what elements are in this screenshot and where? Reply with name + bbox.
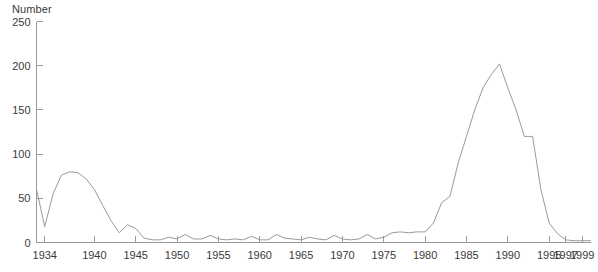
data-series-line — [37, 64, 591, 241]
line-chart-plot: 050100150200250 193419401945195019551960… — [0, 0, 598, 272]
y-tick-label: 50 — [18, 192, 30, 204]
y-tick-label: 250 — [12, 16, 30, 28]
y-tick-label: 0 — [24, 237, 30, 249]
x-axis-ticks: 1934194019451950195519601965197019751980… — [33, 236, 595, 261]
x-tick-label: 1945 — [123, 249, 147, 261]
y-axis-ticks: 050100150200250 — [12, 16, 42, 249]
x-tick-label: 1985 — [454, 249, 478, 261]
x-tick-label: 1999 — [570, 249, 594, 261]
y-tick-label: 100 — [12, 148, 30, 160]
x-tick-label: 1980 — [413, 249, 437, 261]
x-tick-label: 1975 — [372, 249, 396, 261]
x-tick-label: 1955 — [206, 249, 230, 261]
x-tick-label: 1965 — [289, 249, 313, 261]
x-tick-label: 1940 — [82, 249, 106, 261]
x-tick-label: 1970 — [330, 249, 354, 261]
x-tick-label: 1950 — [165, 249, 189, 261]
chart-container: Number 050100150200250 19341940194519501… — [0, 0, 598, 272]
x-tick-label: 1934 — [33, 249, 57, 261]
x-tick-label: 1960 — [248, 249, 272, 261]
y-tick-label: 200 — [12, 60, 30, 72]
y-tick-label: 150 — [12, 104, 30, 116]
x-tick-label: 1990 — [496, 249, 520, 261]
